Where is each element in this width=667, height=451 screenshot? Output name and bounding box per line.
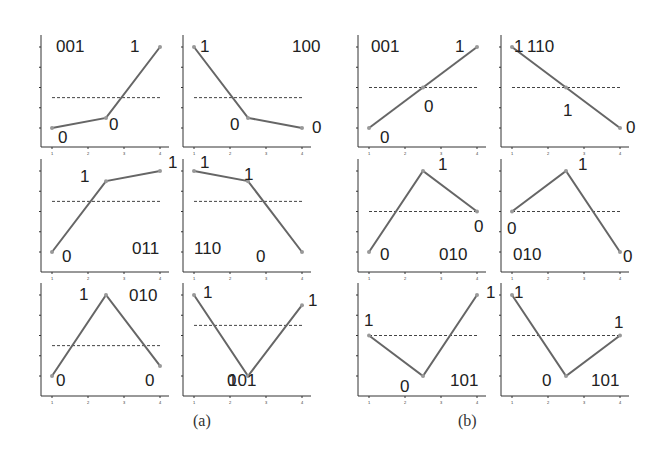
bit-label: 1 [486,283,495,302]
svg-text:1: 1 [368,151,371,156]
caption-a: (a) [193,412,211,430]
bit-label: 0 [227,371,236,390]
pattern-label: 101 [450,371,478,390]
svg-text:3: 3 [265,151,268,156]
svg-text:1: 1 [193,276,196,281]
pattern-label: 100 [292,37,320,56]
svg-text:3: 3 [265,276,268,281]
bit-label: 0 [62,247,71,266]
panel-a-011: 1234011011 [39,153,177,281]
svg-text:3: 3 [440,400,443,405]
svg-text:3: 3 [440,276,443,281]
bit-label: 1 [244,165,253,184]
svg-text:4: 4 [476,151,479,156]
svg-text:2: 2 [547,151,550,156]
panel-a-110: 1234110110 [181,153,311,281]
panel-b-010: 1234010010 [356,155,486,281]
svg-text:1: 1 [51,276,54,281]
bit-label: 0 [230,115,239,134]
bit-label: 0 [623,247,632,266]
bit-label: 1 [614,313,623,332]
svg-text:2: 2 [547,400,550,405]
data-series [52,295,160,376]
panel-a-101: 1234101101 [181,283,317,405]
pattern-label: 010 [129,286,157,305]
bit-label: 0 [58,128,67,147]
data-series [52,47,160,128]
svg-text:2: 2 [404,151,407,156]
bit-label: 0 [56,371,65,390]
svg-text:3: 3 [123,151,126,156]
caption-b: (b) [458,412,477,430]
svg-text:4: 4 [159,276,162,281]
svg-text:4: 4 [301,151,304,156]
svg-text:4: 4 [476,276,479,281]
svg-text:2: 2 [229,151,232,156]
data-series [194,47,302,128]
bit-label: 1 [200,153,209,172]
panel-a-001: 1234001001 [39,35,169,156]
bit-label: 1 [455,37,464,56]
svg-text:4: 4 [159,400,162,405]
bit-label: 1 [79,285,88,304]
bit-label: 1 [168,153,177,172]
svg-text:4: 4 [476,400,479,405]
svg-text:1: 1 [511,151,514,156]
panel-b-010: 1234010010 [499,155,632,281]
bit-label: 0 [109,115,118,134]
bit-label: 0 [380,245,389,264]
svg-text:2: 2 [229,400,232,405]
svg-text:1: 1 [511,276,514,281]
svg-text:1: 1 [51,400,54,405]
svg-text:2: 2 [547,276,550,281]
bit-label: 1 [563,101,572,120]
bit-label: 0 [542,371,551,390]
svg-text:1: 1 [368,276,371,281]
svg-text:1: 1 [193,151,196,156]
svg-text:3: 3 [123,400,126,405]
svg-text:1: 1 [511,400,514,405]
pattern-label: 010 [513,245,541,264]
bit-label: 1 [80,167,89,186]
pattern-label: 110 [194,239,221,258]
svg-text:3: 3 [265,400,268,405]
svg-text:4: 4 [619,276,622,281]
svg-text:2: 2 [404,276,407,281]
svg-text:4: 4 [619,400,622,405]
panel-b-001: 1234001001 [356,35,486,156]
pattern-label: 001 [56,37,84,56]
bit-label: 1 [364,311,373,330]
pattern-label: 001 [371,37,399,56]
bit-label: 1 [200,37,209,56]
svg-text:3: 3 [123,276,126,281]
bit-label: 0 [256,247,265,266]
bit-label: 0 [400,377,409,396]
bit-label: 1 [203,283,212,302]
svg-text:1: 1 [368,400,371,405]
panel-b-101: 1234101101 [499,283,629,405]
pattern-label: 101 [591,371,619,390]
svg-text:3: 3 [583,276,586,281]
svg-text:2: 2 [229,276,232,281]
svg-text:1: 1 [193,400,196,405]
svg-text:2: 2 [404,400,407,405]
bit-label: 0 [145,371,154,390]
panel-b-110: 1234110110 [499,35,635,156]
svg-text:1: 1 [51,151,54,156]
figure-canvas: 1234001001123410010012340110111234110110… [0,0,667,451]
svg-text:4: 4 [159,151,162,156]
data-series [194,295,302,376]
bit-label: 0 [312,118,321,137]
bit-label: 0 [507,219,516,238]
svg-text:4: 4 [619,151,622,156]
panel-b-101: 1234101101 [356,283,495,405]
pattern-label: 010 [439,245,467,264]
pattern-label: 110 [527,37,554,56]
svg-text:4: 4 [301,400,304,405]
bit-label: 0 [424,97,433,116]
bit-label: 1 [130,37,139,56]
svg-text:2: 2 [87,151,90,156]
pattern-label: 011 [132,239,159,258]
bit-label: 0 [380,128,389,147]
bit-label: 1 [514,37,523,56]
